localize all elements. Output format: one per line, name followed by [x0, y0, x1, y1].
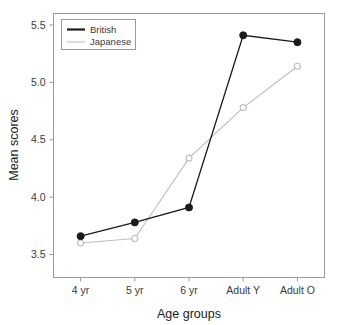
data-point-japanese [240, 105, 246, 111]
data-point-british [294, 39, 301, 46]
y-tick-label: 3.5 [31, 248, 46, 260]
x-tick-label: Adult O [280, 284, 315, 296]
data-point-japanese [78, 240, 84, 246]
data-point-british [240, 32, 247, 39]
y-tick-label: 5.0 [31, 76, 46, 88]
data-point-british [186, 204, 193, 211]
chart-background [0, 0, 345, 325]
x-tick-label: 6 yr [180, 284, 198, 296]
data-point-japanese [294, 63, 300, 69]
y-axis-title: Mean scores [7, 109, 21, 181]
y-tick-label: 5.5 [31, 19, 46, 31]
line-chart-canvas: 3.54.04.55.05.5 4 yr5 yr6 yrAdult YAdult… [0, 0, 345, 325]
chart-figure: 3.54.04.55.05.5 4 yr5 yr6 yrAdult YAdult… [0, 0, 345, 325]
legend-label-japanese: Japanese [90, 36, 131, 47]
y-tick-label: 4.5 [31, 133, 46, 145]
data-point-british [131, 219, 138, 226]
data-point-japanese [132, 235, 138, 241]
data-point-japanese [186, 155, 192, 161]
data-point-british [77, 233, 84, 240]
legend-label-british: British [90, 24, 116, 35]
x-tick-label: 4 yr [72, 284, 90, 296]
y-tick-label: 4.0 [31, 191, 46, 203]
x-tick-label: 5 yr [126, 284, 144, 296]
chart-legend: BritishJapanese [62, 20, 136, 50]
x-tick-label: Adult Y [226, 284, 260, 296]
x-axis-title: Age groups [157, 307, 221, 321]
